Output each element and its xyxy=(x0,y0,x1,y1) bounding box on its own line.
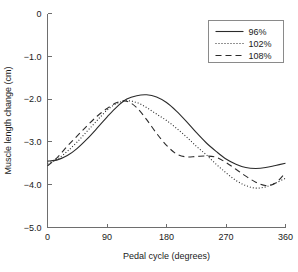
y-tick-label: −4.0 xyxy=(24,180,42,190)
data-series-group xyxy=(48,95,286,188)
x-axis-ticks: 090180270360 xyxy=(45,224,293,242)
legend-box xyxy=(209,21,284,63)
x-axis-title: Pedal cycle (degrees) xyxy=(123,251,210,261)
series-line-102pct xyxy=(48,101,286,188)
legend-label: 102% xyxy=(249,39,272,49)
y-tick-label: −1.0 xyxy=(24,52,42,62)
y-tick-label: −2.0 xyxy=(24,94,42,104)
y-tick-label: −5.0 xyxy=(24,223,42,233)
y-tick-label: −3.0 xyxy=(24,137,42,147)
line-chart: 0−1.0−2.0−3.0−4.0−5.0 090180270360 96%10… xyxy=(0,0,298,272)
legend-label: 96% xyxy=(249,27,267,37)
chart-legend: 96%102%108% xyxy=(209,21,284,63)
x-tick-label: 0 xyxy=(45,232,50,242)
x-tick-label: 180 xyxy=(159,232,174,242)
y-tick-label: 0 xyxy=(36,9,41,19)
series-line-96pct xyxy=(48,95,286,169)
legend-label: 108% xyxy=(249,51,272,61)
chart-figure: 0−1.0−2.0−3.0−4.0−5.0 090180270360 96%10… xyxy=(0,0,298,272)
x-tick-label: 90 xyxy=(102,232,112,242)
y-axis-title: Muscle length change (cm) xyxy=(3,66,13,174)
x-tick-label: 360 xyxy=(278,232,293,242)
x-tick-label: 270 xyxy=(218,232,233,242)
